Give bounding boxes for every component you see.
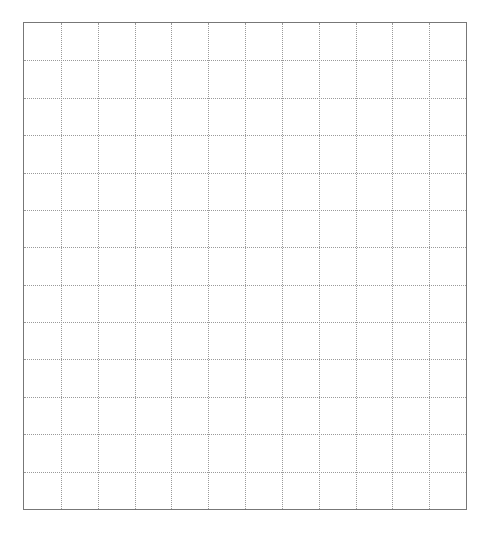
grid-vertical-line: [282, 23, 283, 509]
grid-horizontal-line: [24, 135, 466, 136]
grid-frame: [23, 22, 467, 510]
grid-horizontal-line: [24, 247, 466, 248]
grid-vertical-line: [171, 23, 172, 509]
grid-horizontal-line: [24, 98, 466, 99]
grid-horizontal-line: [24, 397, 466, 398]
grid-vertical-line: [429, 23, 430, 509]
grid-lines: [24, 23, 466, 509]
grid-horizontal-line: [24, 434, 466, 435]
grid-vertical-line: [356, 23, 357, 509]
grid-horizontal-line: [24, 472, 466, 473]
grid-horizontal-line: [24, 322, 466, 323]
grid-vertical-line: [98, 23, 99, 509]
grid-horizontal-line: [24, 60, 466, 61]
grid-vertical-line: [61, 23, 62, 509]
grid-horizontal-line: [24, 285, 466, 286]
grid-horizontal-line: [24, 210, 466, 211]
grid-vertical-line: [245, 23, 246, 509]
grid-vertical-line: [319, 23, 320, 509]
grid-horizontal-line: [24, 359, 466, 360]
grid-vertical-line: [392, 23, 393, 509]
grid-vertical-line: [135, 23, 136, 509]
grid-horizontal-line: [24, 173, 466, 174]
grid-vertical-line: [208, 23, 209, 509]
